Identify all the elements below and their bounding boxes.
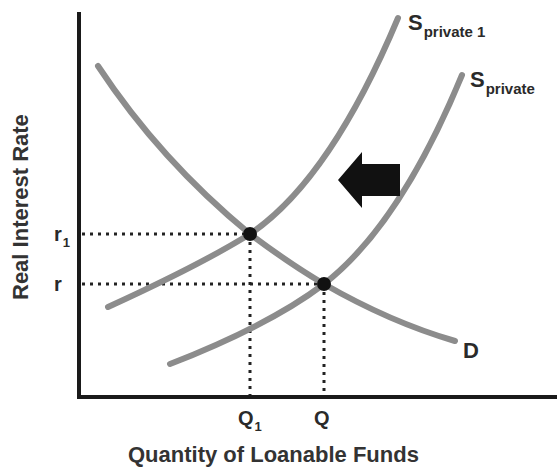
demand-label: D <box>463 338 479 363</box>
y-tick-r: r <box>54 273 62 295</box>
demand-curve <box>98 66 455 341</box>
supply-private-curve <box>170 75 462 364</box>
supply-private-label: Sprivate <box>470 67 535 97</box>
x-tick-q1: Q1 <box>238 407 262 434</box>
left-shift-arrow-icon <box>338 152 400 208</box>
y-tick-r1: r1 <box>54 223 70 250</box>
supply-private-1-label: Sprivate 1 <box>408 10 485 40</box>
equilibrium-point-original <box>317 277 331 291</box>
x-axis-title: Quantity of Loanable Funds <box>128 442 419 467</box>
x-tick-q: Q <box>314 407 330 429</box>
y-axis-title: Real Interest Rate <box>8 114 33 300</box>
loanable-funds-chart: Real Interest Rate Quantity of Loanable … <box>0 0 557 470</box>
equilibrium-point-new <box>243 227 257 241</box>
